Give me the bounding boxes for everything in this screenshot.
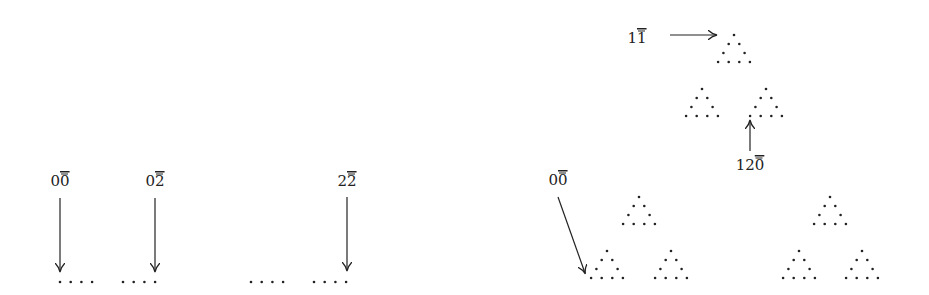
dot [706, 115, 709, 118]
dot [345, 281, 348, 284]
dot [787, 268, 790, 271]
dot [622, 277, 625, 280]
dot [845, 223, 848, 226]
dot [775, 106, 778, 109]
dot [643, 223, 646, 226]
dot [749, 61, 752, 64]
dot [823, 223, 826, 226]
dot [606, 250, 609, 253]
dot [69, 281, 72, 284]
dot [638, 196, 641, 199]
dot [648, 214, 651, 217]
dot [829, 196, 832, 199]
dot [59, 281, 62, 284]
dot [590, 277, 593, 280]
dot [877, 277, 880, 280]
dot [706, 97, 709, 100]
dot [323, 281, 326, 284]
dot [727, 61, 730, 64]
dot [627, 214, 630, 217]
dot [770, 97, 773, 100]
dot [866, 277, 869, 280]
dot [695, 97, 698, 100]
dot [871, 268, 874, 271]
dot-triangle [654, 250, 688, 280]
dot [260, 281, 263, 284]
dot-group [313, 281, 348, 284]
dot [798, 250, 801, 253]
dot [808, 268, 811, 271]
dot [695, 115, 698, 118]
dot-triangle [845, 250, 879, 280]
dot [717, 115, 720, 118]
dot [733, 34, 736, 37]
dot [122, 281, 125, 284]
dot [759, 115, 762, 118]
label-l11: 11 [627, 29, 646, 47]
dot-triangle [749, 88, 783, 118]
dot [770, 115, 773, 118]
dot [781, 115, 784, 118]
dot [743, 52, 746, 55]
dot [834, 223, 837, 226]
dot [845, 277, 848, 280]
dot [727, 43, 730, 46]
dot [792, 277, 795, 280]
dot [738, 43, 741, 46]
dot [670, 250, 673, 253]
dot [132, 281, 135, 284]
label-l00: 00 [50, 172, 69, 190]
dot [313, 281, 316, 284]
dot [814, 277, 817, 280]
dot [334, 281, 337, 284]
dot [600, 277, 603, 280]
dot [834, 205, 837, 208]
dot [91, 281, 94, 284]
dot [80, 281, 83, 284]
label-l02: 02 [145, 172, 164, 190]
dot [803, 259, 806, 262]
dot [866, 259, 869, 262]
dot [271, 281, 274, 284]
dot [632, 205, 635, 208]
dot [611, 259, 614, 262]
dot [659, 268, 662, 271]
dot [855, 259, 858, 262]
dot [803, 277, 806, 280]
dot-triangle [590, 250, 624, 280]
dot [654, 277, 657, 280]
dot [813, 223, 816, 226]
arrow [558, 197, 585, 273]
dot [675, 259, 678, 262]
dot [782, 277, 785, 280]
dot [850, 268, 853, 271]
dot-group [122, 281, 157, 284]
dot [754, 106, 757, 109]
dot [839, 214, 842, 217]
dot-triangle [622, 196, 656, 226]
dot [717, 61, 720, 64]
dot [861, 250, 864, 253]
dot [600, 259, 603, 262]
dot [686, 277, 689, 280]
dot [792, 259, 795, 262]
dot [722, 52, 725, 55]
dot [154, 281, 157, 284]
label-l00r: 00 [548, 171, 567, 189]
dot [680, 268, 683, 271]
dot [622, 223, 625, 226]
dot [855, 277, 858, 280]
dot [616, 268, 619, 271]
dot [738, 61, 741, 64]
dot [654, 223, 657, 226]
dot [818, 214, 821, 217]
label-l22: 22 [337, 172, 356, 190]
dot [611, 277, 614, 280]
dot [595, 268, 598, 271]
dot [685, 115, 688, 118]
dot-triangle [782, 250, 816, 280]
right-triangle-fractal-diagram: 1112000 [548, 29, 879, 279]
dot-triangle [813, 196, 847, 226]
label-l120: 120 [736, 156, 765, 174]
dot [749, 115, 752, 118]
